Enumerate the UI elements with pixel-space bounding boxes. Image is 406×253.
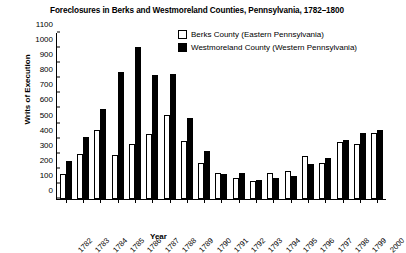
bar-group xyxy=(178,33,195,199)
bar-westmoreland xyxy=(325,158,331,199)
bar-group xyxy=(74,33,91,199)
bar-westmoreland xyxy=(256,180,262,199)
bar-group xyxy=(144,33,161,199)
bar-westmoreland xyxy=(83,137,89,199)
x-axis-tick-label: 1793 xyxy=(265,236,283,253)
plot-area: 010020030040050060070080090010001100 178… xyxy=(56,33,386,200)
bar-group xyxy=(317,33,334,199)
x-axis-tick-mark xyxy=(170,199,171,203)
bar-group xyxy=(213,33,230,199)
chart-title: Foreclosures in Berks and Westmoreland C… xyxy=(0,6,394,15)
x-axis-tick-label: 1790 xyxy=(214,236,232,253)
x-axis-tick-mark xyxy=(152,199,153,203)
x-axis-tick-mark xyxy=(135,199,136,203)
bar-westmoreland xyxy=(135,47,141,199)
y-axis-tick-label: 400 xyxy=(40,125,57,134)
y-axis-tick-label: 900 xyxy=(40,50,57,59)
x-axis-tick-mark xyxy=(377,199,378,203)
x-axis-tick-mark xyxy=(291,199,292,203)
x-axis-tick-mark xyxy=(325,199,326,203)
bar-group xyxy=(92,33,109,199)
x-axis-tick-mark xyxy=(221,199,222,203)
y-axis-tick-label: 1100 xyxy=(36,20,57,29)
bar-group xyxy=(247,33,264,199)
x-axis-tick-mark xyxy=(273,199,274,203)
x-axis-tick-label: 1784 xyxy=(110,236,128,253)
bar-westmoreland xyxy=(152,75,158,199)
y-axis-tick-label: 600 xyxy=(40,95,57,104)
x-axis-tick-label: 1796 xyxy=(317,236,335,253)
x-axis-label: Year xyxy=(150,232,167,241)
bar-westmoreland xyxy=(187,118,193,199)
bar-westmoreland xyxy=(273,178,279,199)
bar-group xyxy=(196,33,213,199)
x-axis-tick-mark xyxy=(204,199,205,203)
x-axis-tick-label: 1792 xyxy=(248,236,266,253)
x-axis-tick-mark xyxy=(343,199,344,203)
x-axis-tick-label: 1791 xyxy=(231,236,249,253)
bar-group xyxy=(351,33,368,199)
bar-westmoreland xyxy=(239,173,245,199)
y-axis-tick-label: 1000 xyxy=(35,35,57,44)
bar-groups xyxy=(57,33,386,199)
x-axis-tick-label: 1794 xyxy=(283,236,301,253)
bar-group xyxy=(334,33,351,199)
bar-group xyxy=(126,33,143,199)
bar-westmoreland xyxy=(343,140,349,199)
bar-westmoreland xyxy=(118,72,124,199)
bar-group xyxy=(161,33,178,199)
x-axis-tick-mark xyxy=(360,199,361,203)
bar-westmoreland xyxy=(360,133,366,199)
bar-group xyxy=(282,33,299,199)
x-axis-tick-label: 1798 xyxy=(352,236,370,253)
x-axis-tick-label: 2000 xyxy=(387,236,405,253)
bar-group xyxy=(57,33,74,199)
y-axis-tick-label: 500 xyxy=(40,110,57,119)
x-axis-tick-label: 1797 xyxy=(335,236,353,253)
x-axis-tick-mark xyxy=(256,199,257,203)
y-axis-tick-label: 0 xyxy=(49,186,57,195)
x-axis-tick-label: 1785 xyxy=(127,236,145,253)
y-axis-tick-label: 800 xyxy=(40,65,57,74)
bar-westmoreland xyxy=(66,161,72,199)
x-axis-tick-label: 1788 xyxy=(179,236,197,253)
y-axis-tick-label: 100 xyxy=(40,170,57,179)
bar-westmoreland xyxy=(308,164,314,199)
x-axis-tick-label: 1795 xyxy=(300,236,318,253)
x-axis-tick-label: 1782 xyxy=(75,236,93,253)
x-axis-tick-label: 1789 xyxy=(196,236,214,253)
x-axis-tick-mark xyxy=(239,199,240,203)
x-axis-tick-mark xyxy=(83,199,84,203)
x-axis-tick-mark xyxy=(308,199,309,203)
bar-group xyxy=(109,33,126,199)
bar-westmoreland xyxy=(204,151,210,199)
bar-westmoreland xyxy=(377,130,383,199)
bar-group xyxy=(299,33,316,199)
x-axis-tick-mark xyxy=(100,199,101,203)
bar-westmoreland xyxy=(221,174,227,199)
x-axis-tick-label: 1799 xyxy=(369,236,387,253)
x-axis-tick-mark xyxy=(66,199,67,203)
x-axis-tick-mark xyxy=(187,199,188,203)
y-axis-tick-label: 300 xyxy=(40,140,57,149)
y-axis-tick-label: 200 xyxy=(40,155,57,164)
bar-group xyxy=(265,33,282,199)
y-axis-tick-label: 700 xyxy=(40,80,57,89)
bar-westmoreland xyxy=(291,176,297,199)
x-axis-tick-label: 1783 xyxy=(92,236,110,253)
bar-westmoreland xyxy=(170,74,176,199)
bar-westmoreland xyxy=(100,109,106,199)
bar-group xyxy=(369,33,386,199)
bar-group xyxy=(230,33,247,199)
y-axis-label: Writs of Execution xyxy=(23,30,32,150)
x-axis-tick-mark xyxy=(118,199,119,203)
